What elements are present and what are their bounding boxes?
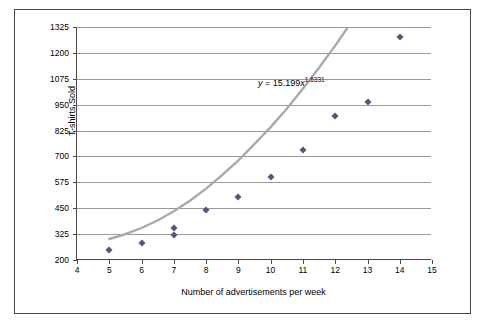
x-tick-mark: [271, 260, 272, 264]
plot-area: 1325 1200 1075 950 825 700 575 450 325 2…: [76, 27, 431, 260]
x-tick-label: 7: [162, 266, 186, 275]
y-tick-label: 950: [29, 101, 69, 110]
x-tick-label: 13: [356, 266, 380, 275]
x-tick-label: 11: [291, 266, 315, 275]
x-tick-mark: [335, 260, 336, 264]
trendline: [77, 27, 432, 260]
x-axis-label: Number of advertisements per week: [76, 287, 431, 297]
y-tick-label: 1075: [29, 75, 69, 84]
x-tick-label: 10: [259, 266, 283, 275]
x-tick-mark: [368, 260, 369, 264]
x-tick-mark: [400, 260, 401, 264]
x-tick-mark: [142, 260, 143, 264]
x-tick-mark: [109, 260, 110, 264]
y-tick-label: 575: [29, 178, 69, 187]
y-tick-label: 825: [29, 127, 69, 136]
x-tick-label: 12: [323, 266, 347, 275]
x-tick-label: 14: [388, 266, 412, 275]
x-tick-label: 5: [97, 266, 121, 275]
trendline-equation: y = 15.199x1.6331: [258, 76, 325, 88]
x-tick-mark: [303, 260, 304, 264]
x-tick-label: 6: [130, 266, 154, 275]
x-tick-label: 9: [226, 266, 250, 275]
x-tick-label: 8: [194, 266, 218, 275]
y-tick-label: 325: [29, 230, 69, 239]
x-tick-mark: [206, 260, 207, 264]
y-tick-label: 700: [29, 152, 69, 161]
y-tick-label: 450: [29, 204, 69, 213]
y-tick-label: 1325: [29, 23, 69, 32]
equation-coefficient: = 15.199: [263, 78, 301, 88]
y-tick-label: 1200: [29, 49, 69, 58]
x-tick-label: 15: [420, 266, 444, 275]
x-tick-mark: [432, 260, 433, 264]
x-tick-mark: [77, 260, 78, 264]
x-tick-label: 4: [65, 266, 89, 275]
equation-exponent: 1.6331: [305, 76, 325, 83]
y-tick-label: 200: [29, 256, 69, 265]
x-tick-mark: [238, 260, 239, 264]
x-tick-mark: [174, 260, 175, 264]
chart-figure: T-shirts Sold 1325 1200 1075 950 825 700…: [14, 9, 471, 314]
